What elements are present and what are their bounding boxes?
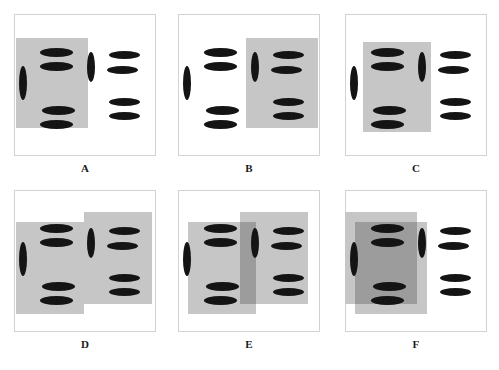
left-horizontal-2 bbox=[204, 238, 237, 247]
left-horizontal-1 bbox=[371, 48, 404, 57]
panel-a bbox=[14, 14, 156, 156]
left-vertical-ellipse bbox=[350, 66, 358, 100]
right-horizontal-2 bbox=[271, 66, 302, 74]
panel-stage bbox=[345, 190, 487, 332]
left-horizontal-1 bbox=[204, 48, 237, 57]
panel-c bbox=[345, 14, 487, 156]
right-horizontal-2 bbox=[107, 242, 138, 250]
panel-caption-e: E bbox=[178, 338, 320, 350]
right-horizontal-3 bbox=[109, 274, 140, 282]
left-horizontal-2 bbox=[204, 62, 237, 71]
figure-panel-grid: ABCDEF bbox=[0, 0, 499, 370]
left-horizontal-3 bbox=[373, 282, 406, 291]
panel-stage bbox=[178, 14, 320, 156]
right-vertical-ellipse bbox=[87, 52, 95, 82]
right-horizontal-1 bbox=[109, 51, 140, 59]
right-horizontal-1 bbox=[273, 227, 304, 235]
left-vertical-ellipse bbox=[350, 242, 358, 276]
panel-f bbox=[345, 190, 487, 332]
left-horizontal-3 bbox=[206, 282, 239, 291]
right-horizontal-2 bbox=[438, 242, 469, 250]
right-vertical-ellipse bbox=[87, 228, 95, 258]
right-vertical-ellipse bbox=[418, 228, 426, 258]
right-vertical-ellipse bbox=[418, 52, 426, 82]
left-horizontal-2 bbox=[40, 62, 73, 71]
right-horizontal-4 bbox=[273, 288, 304, 296]
right-horizontal-3 bbox=[109, 98, 140, 106]
left-horizontal-1 bbox=[371, 224, 404, 233]
right-horizontal-1 bbox=[273, 51, 304, 59]
right-horizontal-1 bbox=[109, 227, 140, 235]
right-horizontal-4 bbox=[109, 288, 140, 296]
left-horizontal-1 bbox=[40, 224, 73, 233]
left-horizontal-4 bbox=[371, 120, 404, 129]
left-horizontal-2 bbox=[371, 238, 404, 247]
left-horizontal-4 bbox=[40, 120, 73, 129]
left-horizontal-3 bbox=[42, 282, 75, 291]
left-vertical-ellipse bbox=[19, 66, 27, 100]
right-horizontal-3 bbox=[440, 274, 471, 282]
panel-e bbox=[178, 190, 320, 332]
right-horizontal-4 bbox=[109, 112, 140, 120]
panel-b bbox=[178, 14, 320, 156]
right-horizontal-3 bbox=[440, 98, 471, 106]
left-horizontal-3 bbox=[373, 106, 406, 115]
left-horizontal-2 bbox=[40, 238, 73, 247]
right-horizontal-2 bbox=[271, 242, 302, 250]
left-horizontal-4 bbox=[204, 296, 237, 305]
panel-stage bbox=[345, 14, 487, 156]
panel-stage bbox=[14, 14, 156, 156]
left-horizontal-4 bbox=[204, 120, 237, 129]
right-horizontal-4 bbox=[273, 112, 304, 120]
left-horizontal-4 bbox=[371, 296, 404, 305]
right-horizontal-1 bbox=[440, 227, 471, 235]
left-horizontal-3 bbox=[42, 106, 75, 115]
right-horizontal-4 bbox=[440, 288, 471, 296]
gray-rect-overlap bbox=[355, 222, 417, 304]
right-horizontal-3 bbox=[273, 274, 304, 282]
left-horizontal-3 bbox=[206, 106, 239, 115]
left-horizontal-1 bbox=[204, 224, 237, 233]
right-horizontal-4 bbox=[440, 112, 471, 120]
panel-caption-a: A bbox=[14, 162, 156, 174]
left-horizontal-1 bbox=[40, 48, 73, 57]
left-horizontal-2 bbox=[371, 62, 404, 71]
panel-stage bbox=[14, 190, 156, 332]
panel-caption-f: F bbox=[345, 338, 487, 350]
right-horizontal-2 bbox=[438, 66, 469, 74]
panel-d bbox=[14, 190, 156, 332]
left-vertical-ellipse bbox=[183, 242, 191, 276]
left-vertical-ellipse bbox=[19, 242, 27, 276]
right-horizontal-2 bbox=[107, 66, 138, 74]
right-vertical-ellipse bbox=[251, 228, 259, 258]
right-vertical-ellipse bbox=[251, 52, 259, 82]
right-horizontal-1 bbox=[440, 51, 471, 59]
panel-caption-c: C bbox=[345, 162, 487, 174]
left-vertical-ellipse bbox=[183, 66, 191, 100]
panel-caption-b: B bbox=[178, 162, 320, 174]
left-horizontal-4 bbox=[40, 296, 73, 305]
panel-caption-d: D bbox=[14, 338, 156, 350]
right-horizontal-3 bbox=[273, 98, 304, 106]
panel-stage bbox=[178, 190, 320, 332]
